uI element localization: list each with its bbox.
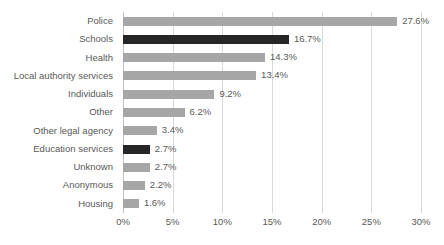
category-label: Police bbox=[0, 12, 118, 30]
bar bbox=[123, 71, 256, 80]
bar-row: 14.3% bbox=[123, 49, 421, 67]
x-tick-label: 5% bbox=[166, 215, 180, 229]
x-tick-label: 0% bbox=[116, 215, 130, 229]
category-label: Anonymous bbox=[0, 176, 118, 194]
bar bbox=[123, 35, 289, 44]
bar-chart: PoliceSchoolsHealthLocal authority servi… bbox=[0, 0, 444, 245]
gridline-30% bbox=[421, 12, 422, 213]
x-tick-label: 20% bbox=[312, 215, 331, 229]
category-label: Health bbox=[0, 49, 118, 67]
bar-value-label: 2.7% bbox=[155, 141, 177, 157]
bar-value-label: 13.4% bbox=[261, 67, 288, 83]
bar-row: 9.2% bbox=[123, 85, 421, 103]
bar-row: 13.4% bbox=[123, 67, 421, 85]
bar bbox=[123, 108, 185, 117]
bar-row: 2.7% bbox=[123, 158, 421, 176]
x-tick-label: 30% bbox=[411, 215, 430, 229]
bar bbox=[123, 126, 157, 135]
bar-value-label: 16.7% bbox=[294, 31, 321, 47]
bar-value-label: 9.2% bbox=[219, 86, 241, 102]
x-tick-label: 15% bbox=[262, 215, 281, 229]
bar-value-label: 14.3% bbox=[270, 49, 297, 65]
category-label: Individuals bbox=[0, 85, 118, 103]
category-label: Housing bbox=[0, 195, 118, 213]
plot-area: 27.6%16.7%14.3%13.4%9.2%6.2%3.4%2.7%2.7%… bbox=[123, 12, 421, 213]
bar bbox=[123, 181, 145, 190]
bar bbox=[123, 90, 214, 99]
category-label: Other legal agency bbox=[0, 122, 118, 140]
bar bbox=[123, 53, 265, 62]
bar bbox=[123, 145, 150, 154]
category-label: Other bbox=[0, 103, 118, 121]
bar-value-label: 3.4% bbox=[162, 122, 184, 138]
category-axis-labels: PoliceSchoolsHealthLocal authority servi… bbox=[0, 12, 118, 213]
bar-rows: 27.6%16.7%14.3%13.4%9.2%6.2%3.4%2.7%2.7%… bbox=[123, 12, 421, 213]
bar-row: 2.2% bbox=[123, 176, 421, 194]
bar-value-label: 1.6% bbox=[144, 195, 166, 211]
x-tick-label: 25% bbox=[362, 215, 381, 229]
category-label: Unknown bbox=[0, 158, 118, 176]
bar-row: 1.6% bbox=[123, 195, 421, 213]
bar-value-label: 2.7% bbox=[155, 159, 177, 175]
bar-row: 6.2% bbox=[123, 103, 421, 121]
bar-row: 27.6% bbox=[123, 12, 421, 30]
value-axis-labels: 0%5%10%15%20%25%30% bbox=[123, 213, 421, 233]
bar-value-label: 2.2% bbox=[150, 177, 172, 193]
category-label: Education services bbox=[0, 140, 118, 158]
bar bbox=[123, 163, 150, 172]
bar bbox=[123, 199, 139, 208]
x-tick-label: 10% bbox=[213, 215, 232, 229]
bar-row: 2.7% bbox=[123, 140, 421, 158]
category-label: Schools bbox=[0, 30, 118, 48]
bar-value-label: 27.6% bbox=[402, 13, 429, 29]
bar-row: 16.7% bbox=[123, 30, 421, 48]
category-label: Local authority services bbox=[0, 67, 118, 85]
bar-value-label: 6.2% bbox=[190, 104, 212, 120]
bar-row: 3.4% bbox=[123, 122, 421, 140]
bar bbox=[123, 17, 397, 26]
